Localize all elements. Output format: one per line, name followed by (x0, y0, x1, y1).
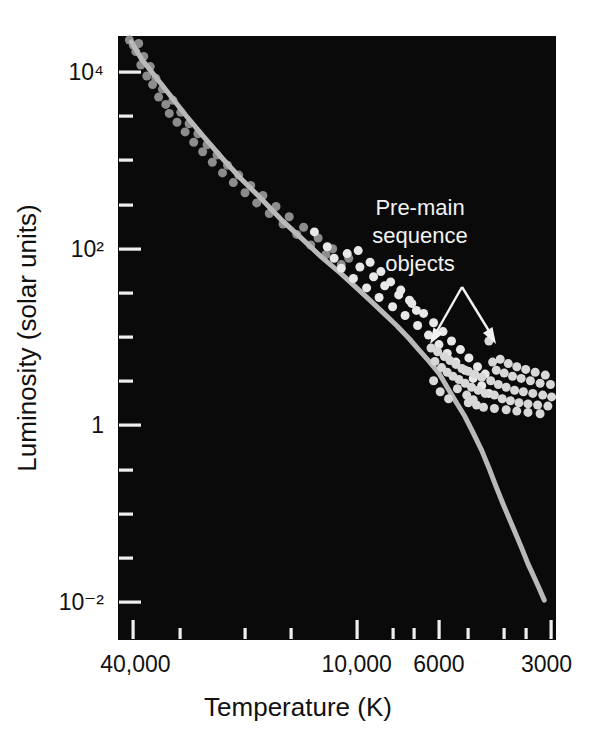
data-point (444, 394, 453, 403)
x-axis-label: Temperature (K) (204, 692, 392, 722)
data-point (285, 212, 294, 221)
data-point (330, 254, 339, 263)
annotation-line-2: sequence (372, 223, 467, 248)
y-major-tick (119, 248, 141, 251)
data-point (189, 138, 198, 147)
x-major-tick (550, 620, 553, 639)
data-point (299, 223, 308, 232)
data-point (506, 396, 515, 405)
data-point (436, 387, 445, 396)
y-tick-label: 1 (91, 412, 104, 438)
data-point (546, 380, 555, 389)
data-point (538, 391, 547, 400)
y-minor-tick (119, 336, 133, 339)
y-axis-label: Luminosity (solar units) (12, 204, 42, 471)
x-tick-label: 10,000 (321, 651, 391, 677)
data-point (453, 384, 462, 393)
data-point (541, 371, 550, 380)
data-point (388, 302, 397, 311)
y-tick-label: 10⁴ (69, 59, 104, 85)
data-point (355, 263, 364, 272)
data-point (490, 391, 499, 400)
data-point (492, 366, 501, 375)
data-point (526, 376, 535, 385)
data-point (181, 127, 190, 136)
data-point (524, 408, 533, 417)
data-point (323, 242, 332, 251)
data-point (430, 357, 439, 366)
x-tick-label: 40,000 (100, 651, 170, 677)
data-point (386, 277, 395, 286)
data-point (366, 258, 375, 267)
data-point (521, 365, 530, 374)
y-minor-tick (119, 513, 133, 516)
data-point (517, 374, 526, 383)
x-minor-tick (525, 628, 528, 639)
x-minor-tick (244, 628, 247, 639)
y-tick-label: 10⁻² (59, 589, 105, 615)
data-point (528, 389, 537, 398)
data-point (165, 109, 174, 118)
y-minor-tick (119, 469, 133, 472)
x-major-tick (132, 620, 135, 639)
data-point (494, 380, 503, 389)
data-point (531, 368, 540, 377)
data-point (343, 249, 352, 258)
data-point (502, 383, 511, 392)
data-point (396, 286, 405, 295)
x-tick-label: 6000 (413, 651, 464, 677)
y-tick-label: 10² (71, 236, 105, 262)
data-point (502, 405, 511, 414)
data-point (429, 376, 438, 385)
data-point (498, 394, 507, 403)
data-point (536, 379, 545, 388)
data-point (512, 362, 521, 371)
data-point (469, 395, 478, 404)
x-minor-tick (179, 628, 182, 639)
data-point (337, 264, 346, 273)
data-point (543, 402, 552, 411)
annotation-line-1: Pre-main (375, 195, 464, 220)
x-minor-tick (290, 628, 293, 639)
y-major-tick (119, 424, 141, 427)
hr-diagram-figure: Pre-main sequence objects 10⁴10²110⁻²40,… (0, 0, 596, 747)
data-point (524, 399, 533, 408)
data-point (229, 178, 238, 187)
y-minor-tick (119, 204, 133, 207)
data-point (375, 293, 384, 302)
data-point (464, 353, 473, 362)
pre-main-sequence-annotation: Pre-main sequence objects (372, 195, 467, 276)
data-point (481, 389, 490, 398)
data-point (547, 392, 556, 401)
data-point (401, 311, 410, 320)
y-minor-tick (119, 380, 133, 383)
data-point (412, 306, 421, 315)
data-point (354, 246, 363, 255)
data-point (413, 321, 422, 330)
data-point (510, 386, 519, 395)
data-point (349, 274, 358, 283)
data-point (447, 337, 456, 346)
data-point (218, 168, 227, 177)
y-minor-tick (119, 557, 133, 560)
data-point (241, 188, 250, 197)
data-point (154, 93, 163, 102)
data-point (515, 398, 524, 407)
data-point (519, 387, 528, 396)
data-point (508, 372, 517, 381)
x-minor-tick (392, 628, 395, 639)
data-point (456, 345, 465, 354)
y-minor-tick (119, 159, 133, 162)
data-point (490, 404, 499, 413)
data-point (536, 409, 545, 418)
data-point (405, 296, 414, 305)
data-point (429, 318, 438, 327)
x-minor-tick (467, 628, 470, 639)
x-minor-tick (503, 628, 506, 639)
data-point (369, 272, 378, 281)
data-point (376, 267, 385, 276)
y-major-tick (119, 601, 141, 604)
data-point (504, 359, 513, 368)
annotation-line-3: objects (385, 251, 455, 276)
x-major-tick (438, 620, 441, 639)
